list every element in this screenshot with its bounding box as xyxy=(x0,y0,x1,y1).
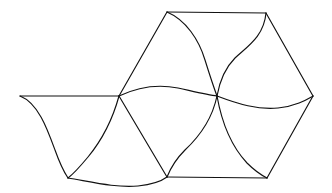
line-drawing-svg xyxy=(0,0,332,193)
figure-canvas xyxy=(0,0,332,193)
